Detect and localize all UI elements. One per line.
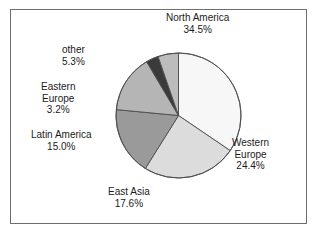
pie-label-eastern-europe-value: 3.2% [41,104,75,116]
chart-figure: North America 34.5% Western Europe 24.4%… [0,0,317,233]
pie-label-north-america: North America 34.5% [166,12,229,35]
pie-chart [0,0,317,233]
pie-label-western-europe-name2: Europe [232,149,269,161]
pie-label-other-name: other [62,44,85,56]
pie-label-latin-america-value: 15.0% [31,141,92,153]
pie-label-north-america-name: North America [166,12,229,24]
pie-label-western-europe-value: 24.4% [232,160,269,172]
pie-label-eastern-europe: Eastern Europe 3.2% [41,81,75,116]
pie-label-east-asia-value: 17.6% [108,198,150,210]
pie-label-latin-america: Latin America 15.0% [31,129,92,152]
pie-label-latin-america-name: Latin America [31,129,92,141]
pie-label-western-europe-name1: Western [232,137,269,149]
pie-label-other: other 5.3% [62,44,85,67]
pie-label-western-europe: Western Europe 24.4% [232,137,269,172]
pie-slice-group [116,53,241,178]
pie-label-north-america-value: 34.5% [166,24,229,36]
pie-label-eastern-europe-name1: Eastern [41,81,75,93]
pie-label-other-value: 5.3% [62,56,85,68]
pie-label-eastern-europe-name2: Europe [41,93,75,105]
pie-label-east-asia: East Asia 17.6% [108,186,150,209]
pie-label-east-asia-name: East Asia [108,186,150,198]
